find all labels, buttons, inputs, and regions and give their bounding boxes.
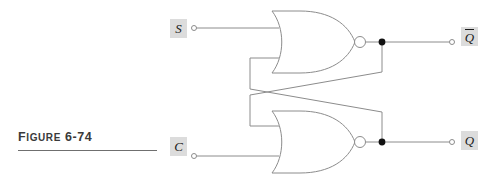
- figure-caption-block: FIGURE 6-74: [18, 130, 160, 151]
- output-label-q: Q: [461, 131, 478, 150]
- gate-nor-bottom-body: [272, 111, 355, 173]
- wire-feedback-qbar-to-bottom-gate: [250, 42, 382, 126]
- figure-caption-rule: [18, 150, 157, 151]
- gate-nor-top-body: [272, 11, 355, 73]
- gate-nor-bottom-inversion-bubble: [355, 137, 366, 148]
- gate-nor-top: [272, 11, 366, 73]
- gate-nor-top-inversion-bubble: [355, 37, 366, 48]
- terminal-output-qbar: [450, 40, 455, 45]
- output-label-q-bar: Q: [461, 27, 478, 46]
- caption-rest: IGURE: [26, 132, 61, 143]
- terminal-output-q: [450, 140, 455, 145]
- terminal-input-s: [192, 26, 197, 31]
- output-label-q-text: Q: [465, 134, 474, 147]
- caption-number: 6-74: [65, 130, 92, 144]
- terminal-input-c: [192, 154, 197, 159]
- input-label-s-text: S: [175, 22, 182, 35]
- junction-dot-qbar: [379, 39, 386, 46]
- input-label-c-text: C: [174, 140, 183, 153]
- figure-page: S C Q Q FIGURE 6-74: [0, 0, 494, 182]
- gate-nor-bottom: [272, 111, 366, 173]
- nor-latch-circuit-diagram: [0, 0, 494, 182]
- figure-caption-text: FIGURE 6-74: [18, 130, 160, 145]
- wire-feedback-q-to-top-gate: [250, 58, 382, 142]
- input-label-c: C: [170, 137, 187, 156]
- junction-dot-q: [379, 139, 386, 146]
- output-label-q-bar-text: Q: [465, 29, 474, 44]
- input-label-s: S: [170, 19, 187, 38]
- caption-prefix: F: [18, 130, 26, 144]
